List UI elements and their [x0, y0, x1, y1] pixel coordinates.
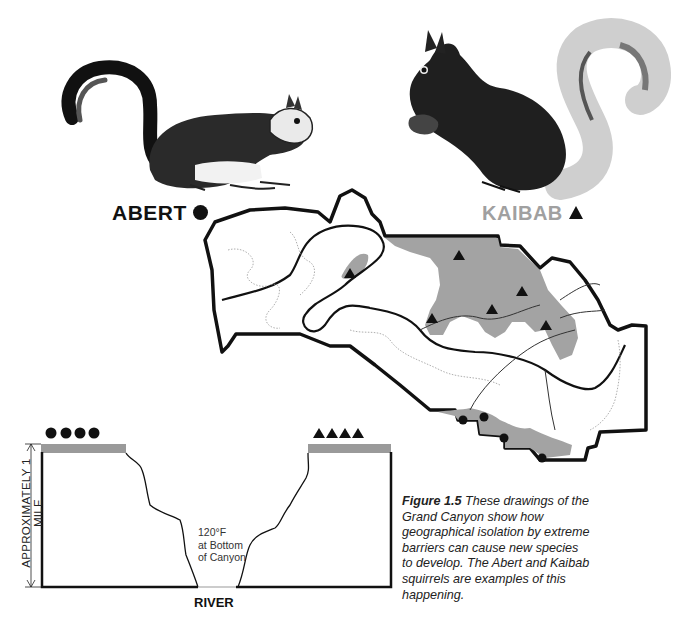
figure-number: Figure 1.5: [402, 494, 462, 508]
grand-canyon-map: [205, 190, 646, 463]
kaibab-squirrel-illustration: [408, 30, 656, 192]
circle-icon: [193, 205, 208, 220]
temperature-line-3: of Canyon: [198, 551, 246, 564]
temperature-line-2: at Bottom: [198, 539, 246, 552]
south-rim-kaibab-markers: [313, 428, 364, 438]
abert-label: ABERT: [112, 201, 208, 225]
height-label: APPROXIMATELY 1 MILE: [20, 443, 44, 583]
figure-caption: Figure 1.5 These drawings of the Grand C…: [402, 494, 592, 603]
caption-text: These drawings of the Grand Canyon show …: [402, 494, 590, 602]
north-rim-band: [41, 444, 126, 453]
north-rim-abert-markers: [46, 428, 100, 439]
temperature-value: 120°F: [198, 526, 246, 539]
kaibab-label: KAIBAB: [482, 202, 583, 225]
river-label: RIVER: [194, 595, 234, 610]
canyon-right-wall: [238, 453, 309, 587]
abert-squirrel-illustration: [69, 67, 313, 190]
kaibab-label-text: KAIBAB: [482, 202, 563, 224]
south-rim-band: [308, 444, 391, 453]
temperature-note: 120°F at Bottom of Canyon: [198, 526, 246, 564]
abert-label-text: ABERT: [112, 201, 187, 224]
triangle-icon: [569, 206, 583, 219]
canyon-left-wall: [126, 453, 198, 587]
